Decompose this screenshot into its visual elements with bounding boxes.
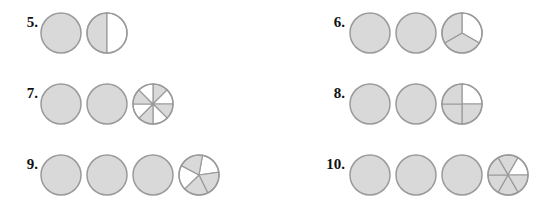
- whole-circle-icon: [395, 83, 437, 125]
- fraction-circle-icon: [487, 154, 529, 196]
- problem-8: 8.: [0, 83, 538, 127]
- whole-circle-icon: [349, 83, 391, 125]
- problem-number: 8.: [315, 85, 345, 102]
- fraction-circle-icon: [441, 83, 483, 125]
- whole-circle-icon: [395, 154, 437, 196]
- whole-circle-icon: [395, 12, 437, 54]
- whole-circle-icon: [349, 154, 391, 196]
- problem-number: 10.: [315, 156, 345, 173]
- problem-number: 6.: [315, 14, 345, 31]
- problem-10: 10.: [0, 154, 538, 198]
- whole-circle-icon: [441, 154, 483, 196]
- problem-6: 6.: [0, 12, 538, 56]
- fraction-circle-icon: [441, 12, 483, 54]
- whole-circle-icon: [349, 12, 391, 54]
